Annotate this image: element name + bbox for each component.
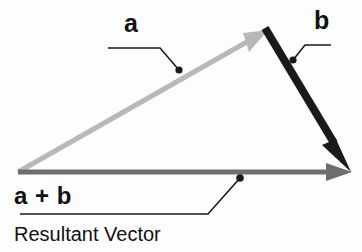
- leader-b-group: [289, 45, 331, 64]
- vector-resultant-group: [18, 163, 352, 181]
- resultant-caption-label: Resultant Vector: [14, 224, 161, 244]
- leader-resultant-dot: [236, 174, 244, 182]
- vector-a-label: a: [124, 11, 138, 36]
- resultant-expression-label: a + b: [14, 184, 72, 208]
- leader-a-dot: [175, 66, 182, 73]
- leader-a-group: [108, 48, 183, 74]
- vector-a-shaft: [18, 39, 252, 172]
- leader-a-line: [108, 48, 179, 70]
- vector-diagram-canvas: [0, 0, 362, 252]
- vector-b-label: b: [314, 8, 329, 33]
- vector-b-group: [265, 28, 351, 172]
- leader-b-dot: [289, 56, 296, 63]
- vector-addition-figure: a b a + b Resultant Vector: [0, 0, 362, 252]
- leader-b-line: [293, 45, 331, 60]
- vector-a-group: [18, 30, 268, 172]
